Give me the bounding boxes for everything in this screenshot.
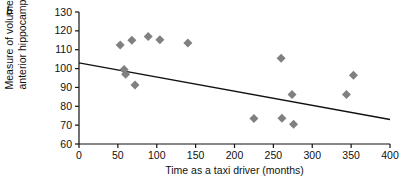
data-point-marker bbox=[277, 114, 286, 123]
y-tick-label: 120 bbox=[54, 24, 72, 36]
data-point-marker bbox=[116, 41, 125, 50]
x-tick-label: 150 bbox=[187, 149, 205, 161]
x-tick-label: 250 bbox=[265, 149, 283, 161]
y-tick-label: 130 bbox=[54, 6, 72, 18]
y-tick-label: 100 bbox=[54, 62, 72, 74]
data-point-marker bbox=[144, 32, 153, 41]
y-tick-label: 70 bbox=[60, 119, 72, 131]
data-point-marker bbox=[127, 36, 136, 45]
x-tick-label: 100 bbox=[148, 149, 166, 161]
data-point-marker bbox=[349, 71, 358, 80]
data-point-marker bbox=[155, 35, 164, 44]
data-point-marker bbox=[183, 39, 192, 48]
y-tick-label: 60 bbox=[60, 138, 72, 150]
data-points bbox=[116, 32, 358, 129]
data-point-marker bbox=[289, 120, 298, 129]
x-tick-label: 200 bbox=[226, 149, 244, 161]
scatter-plot: 60708090100110120130 0501001502002503003… bbox=[0, 0, 404, 183]
y-tick-label: 80 bbox=[60, 100, 72, 112]
x-tick-label: 0 bbox=[76, 149, 82, 161]
data-point-marker bbox=[130, 80, 139, 89]
y-tick-label: 90 bbox=[60, 81, 72, 93]
x-tick-label: 400 bbox=[381, 149, 399, 161]
x-tick-label: 300 bbox=[303, 149, 321, 161]
x-tick-label: 350 bbox=[342, 149, 360, 161]
data-point-marker bbox=[288, 90, 297, 99]
y-tick-label: 110 bbox=[55, 43, 72, 55]
y-axis-ticks: 60708090100110120130 bbox=[54, 6, 79, 150]
data-point-marker bbox=[342, 90, 351, 99]
data-point-marker bbox=[277, 54, 286, 63]
x-tick-label: 50 bbox=[112, 149, 124, 161]
x-axis-ticks: 050100150200250300350400 bbox=[76, 144, 399, 161]
figure-panel-b: b Measure of volume of anterior hippocam… bbox=[0, 0, 404, 183]
data-point-marker bbox=[249, 114, 258, 123]
